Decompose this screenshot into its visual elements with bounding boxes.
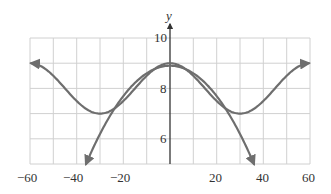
x-tick-neg40: −40 [63,170,83,185]
x-tick-labels: −60 −40 −20 20 40 60 [17,170,315,185]
y-tick-8: 8 [160,81,167,96]
x-tick-20: 20 [209,170,222,185]
x-tick-40: 40 [256,170,269,185]
x-tick-60: 60 [302,170,315,185]
x-tick-neg20: −20 [110,170,130,185]
x-tick-neg60: −60 [17,170,37,185]
chart: y 10 8 6 −60 −40 −20 20 40 60 [0,0,331,194]
y-tick-6: 6 [160,131,167,146]
y-axis-label: y [164,8,172,23]
y-tick-10: 10 [154,30,167,45]
